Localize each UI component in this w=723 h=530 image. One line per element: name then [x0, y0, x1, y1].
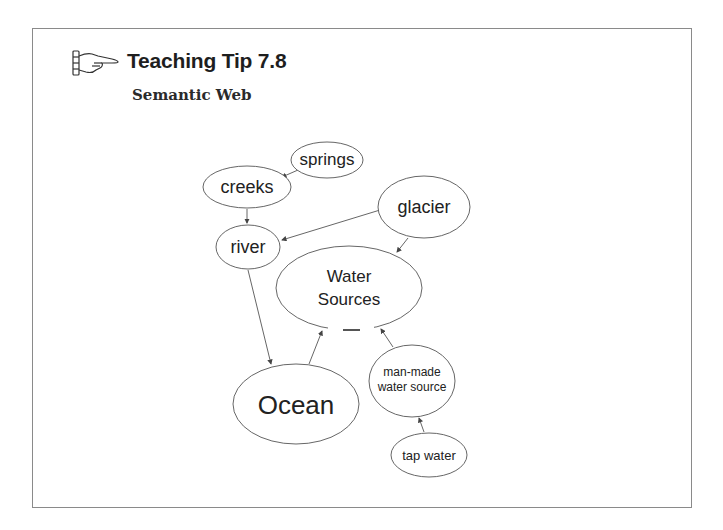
edge-glacier-river	[282, 210, 380, 240]
edge-tap-manmade	[419, 418, 424, 432]
label-water-sources-1: Water	[327, 267, 372, 286]
edge-river-ocean	[248, 270, 271, 364]
label-man-made-1: man-made	[383, 365, 441, 379]
edge-glacier-water	[397, 238, 408, 252]
label-tap-water: tap water	[402, 448, 456, 463]
label-ocean: Ocean	[258, 390, 335, 420]
node-water-sources	[276, 246, 422, 330]
label-springs: springs	[300, 150, 355, 169]
label-water-sources-2: Sources	[318, 290, 380, 309]
label-glacier: glacier	[397, 197, 450, 217]
edge-manmade-water	[381, 329, 393, 347]
label-river: river	[231, 237, 266, 257]
semantic-web-diagram: springs creeks glacier river Water Sourc…	[0, 0, 723, 530]
label-man-made-2: water source	[377, 380, 447, 394]
edge-ocean-water	[309, 331, 322, 364]
label-creeks: creeks	[220, 177, 273, 197]
